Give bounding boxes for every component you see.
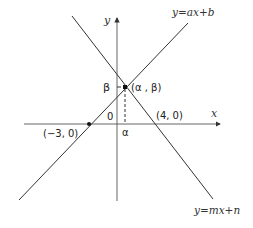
intersection-point xyxy=(123,85,127,89)
line-mx-n-label: y=mx+n xyxy=(193,204,240,216)
point-neg3 xyxy=(87,122,91,126)
origin-label: 0 xyxy=(107,111,113,122)
y-axis-label: y xyxy=(103,14,111,27)
alpha-tick-label: α xyxy=(122,127,129,138)
line-mx-n xyxy=(72,16,213,199)
line-ax-b-label: y=ax+b xyxy=(171,6,215,18)
intersection-label: (α , β) xyxy=(131,82,161,93)
x-axis-label: x xyxy=(211,107,218,120)
beta-tick-label: β xyxy=(103,81,110,94)
point-pos4-label: (4, 0) xyxy=(156,110,183,121)
coordinate-diagram: y x 0 y=ax+b y=mx+n (α , β) (−3, 0) (4, … xyxy=(0,0,253,228)
point-neg3-label: (−3, 0) xyxy=(43,128,78,139)
